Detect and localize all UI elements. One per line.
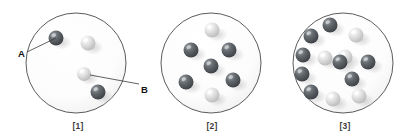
sphere-light [205, 88, 220, 103]
container-caption-2: [2] [192, 121, 232, 131]
callout-label-a: A [18, 48, 25, 59]
container-2 [161, 13, 261, 113]
sphere-light [349, 28, 364, 43]
sphere-dark [226, 73, 241, 88]
sphere-dark [91, 85, 106, 100]
sphere-light [318, 51, 333, 66]
sphere-dark [333, 55, 348, 70]
sphere-light [352, 89, 367, 104]
sphere-dark [222, 43, 237, 58]
sphere-dark [345, 72, 360, 87]
callout-label-b: B [141, 84, 148, 95]
sphere-dark [296, 48, 311, 63]
sphere-dark [179, 75, 194, 90]
container-3 [293, 13, 393, 113]
molecule-container-diagram [0, 0, 403, 139]
sphere-light [326, 92, 341, 107]
sphere-dark [204, 59, 219, 74]
container-caption-1: [1] [58, 121, 98, 131]
sphere-dark [323, 18, 338, 33]
container-1 [26, 13, 126, 113]
sphere-dark [304, 29, 319, 44]
sphere-dark [304, 85, 319, 100]
sphere-dark [361, 55, 376, 70]
container-caption-3: [3] [325, 121, 365, 131]
sphere-dark [184, 43, 199, 58]
sphere-light [77, 67, 91, 81]
sphere-light [81, 36, 96, 51]
sphere-light [205, 23, 220, 38]
sphere-dark [295, 67, 310, 82]
